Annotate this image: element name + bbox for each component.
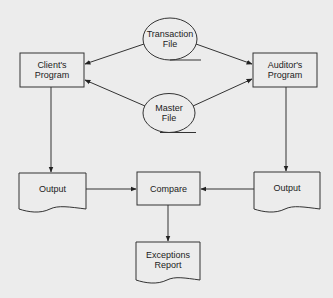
auditors-program-label: Auditor's Program (253, 53, 317, 87)
edge-transaction-to-client (85, 44, 144, 64)
auditors-program-label-line2: Program (268, 70, 303, 80)
compare-label: Compare (137, 172, 200, 205)
master-file-label: Master File (143, 100, 195, 126)
transaction-file-label: Transaction File (143, 26, 197, 52)
exceptions-report-label: Exceptions Report (136, 246, 200, 274)
edge-master-to-auditor (193, 79, 252, 106)
exceptions-report-label-line1: Exceptions (146, 250, 190, 260)
exceptions-report-label-line2: Report (154, 260, 181, 270)
clients-program-label: Client's Program (20, 53, 84, 87)
output-left-label: Output (19, 178, 86, 200)
auditors-program-label-line1: Auditor's (268, 60, 303, 70)
master-file-label-line2: File (162, 113, 177, 123)
transaction-file-label-line1: Transaction (147, 29, 194, 39)
output-right-label: Output (254, 177, 320, 199)
edge-master-to-client (85, 80, 145, 106)
transaction-file-label-line2: File (163, 39, 178, 49)
edge-transaction-to-auditor (196, 44, 252, 64)
master-file-label-line1: Master (155, 103, 183, 113)
clients-program-label-line1: Client's (37, 60, 66, 70)
clients-program-label-line2: Program (35, 70, 70, 80)
